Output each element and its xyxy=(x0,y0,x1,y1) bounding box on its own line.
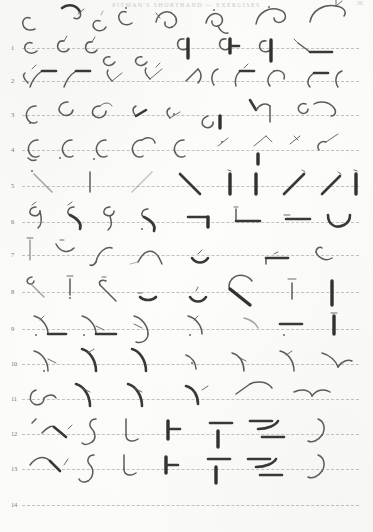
line-number-4: 4 xyxy=(11,146,14,153)
line-number-9: 9 xyxy=(11,325,14,332)
line-number-3: 3 xyxy=(11,111,14,118)
line-number-10: 10 xyxy=(11,360,17,367)
line-number-14: 14 xyxy=(11,501,17,508)
line-number-5: 5 xyxy=(11,182,14,189)
line-number-1: 1 xyxy=(11,44,14,51)
line-number-2: 2 xyxy=(11,77,14,84)
page-number: 36 xyxy=(357,0,364,6)
line-number-11: 11 xyxy=(11,395,17,402)
line-number-13: 13 xyxy=(11,465,17,472)
line-number-7: 7 xyxy=(11,251,14,258)
header-title: PITMAN'S SHORTHAND — EXERCISES xyxy=(112,2,261,8)
line-number-8: 8 xyxy=(11,288,14,295)
page-header: PITMAN'S SHORTHAND — EXERCISES xyxy=(0,0,373,10)
line-number-6: 6 xyxy=(11,218,14,225)
shorthand-page: PITMAN'S SHORTHAND — EXERCISES 36 1 xyxy=(0,0,373,532)
line-number-12: 12 xyxy=(11,430,17,437)
